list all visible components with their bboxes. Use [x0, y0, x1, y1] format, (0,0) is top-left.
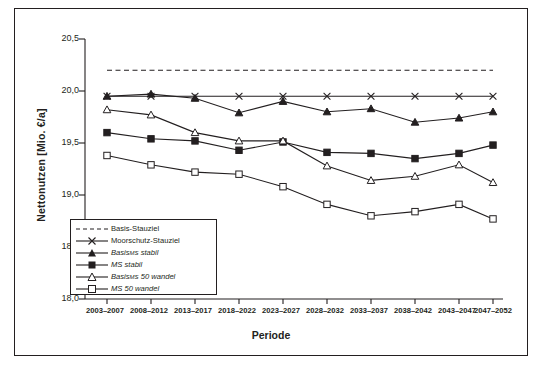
legend-item-basis-ms-stabil: BasisMS stabil [71, 247, 216, 259]
legend-label-sub: MS [130, 250, 139, 256]
x-tick-8: 2043–2047 [438, 306, 476, 315]
x-tick-1: 2008–2012 [130, 306, 168, 315]
data-point [236, 147, 242, 153]
legend-item-moorschutz-stauziel: Moorschutz-Stauziel [71, 235, 216, 247]
x-tick-7: 2038–2042 [394, 306, 432, 315]
data-point [192, 138, 198, 144]
series-layer [103, 70, 497, 222]
legend-label-tail: 50 wandel [122, 284, 159, 293]
x-tick-9: 2047–2052 [474, 306, 512, 315]
legend-label-basis-stauziel: Basis-Stauziel [111, 223, 159, 235]
data-point [192, 169, 198, 175]
legend-label-moorschutz-stauziel: Moorschutz-Stauziel [111, 235, 180, 247]
series-1 [104, 93, 497, 100]
x-tick-0: 2003–2007 [86, 306, 124, 315]
legend-item-ms-stabil: MS stabil [71, 259, 216, 271]
data-point [456, 150, 462, 156]
legend-label-tail: stabil [122, 260, 142, 269]
legend-label-ms-50-wandel: MS 50 wandel [111, 283, 159, 295]
legend-symbol-x-marker [75, 235, 109, 247]
data-point [456, 201, 462, 207]
data-point [489, 108, 497, 115]
data-point [455, 161, 463, 168]
data-point [490, 142, 496, 148]
data-point [236, 171, 242, 177]
data-point [104, 152, 110, 158]
legend: Basis-Stauziel Moorschutz-Stauziel Basis… [70, 219, 217, 295]
legend-item-basis-ms-50-wandel: BasisMS 50 wandel [71, 271, 216, 283]
legend-label-ms-stabil: MS stabil [111, 259, 142, 271]
legend-label-main: MS [111, 284, 122, 293]
data-point [368, 150, 374, 156]
data-point [368, 213, 374, 219]
data-point [367, 105, 375, 112]
data-point [489, 179, 497, 186]
legend-label-sub: MS [130, 274, 139, 280]
data-point [412, 208, 418, 214]
x-tick-2: 2013–2017 [174, 306, 212, 315]
legend-label-basis-ms-50-wandel: BasisMS 50 wandel [111, 271, 175, 283]
legend-symbol-dashed-line [75, 223, 109, 235]
legend-label-main: Basis [111, 248, 130, 257]
x-tick-4: 2023–2027 [262, 306, 300, 315]
data-point [103, 106, 111, 113]
data-point [191, 129, 199, 136]
legend-symbol-square-open [75, 283, 109, 295]
data-point [324, 149, 330, 155]
series-3 [104, 129, 496, 161]
legend-label-main: Basis [111, 272, 130, 281]
data-point [323, 162, 331, 169]
x-tick-3: 2018–2022 [218, 306, 256, 315]
data-point [104, 129, 110, 135]
data-point [490, 216, 496, 222]
legend-label-basis-ms-stabil: BasisMS stabil [111, 247, 158, 259]
legend-symbol-square-filled [75, 259, 109, 271]
series-5 [104, 152, 496, 222]
data-point [280, 183, 286, 189]
legend-label-tail: 50 wandel [139, 272, 176, 281]
x-tick-5: 2028–2032 [306, 306, 344, 315]
legend-symbol-triangle-filled [75, 247, 109, 259]
data-point [412, 155, 418, 161]
data-point [324, 201, 330, 207]
legend-label-tail: stabil [139, 248, 159, 257]
plot-area [15, 9, 527, 355]
legend-symbol-triangle-open [75, 271, 109, 283]
legend-item-ms-50-wandel: MS 50 wandel [71, 283, 216, 295]
data-point [148, 162, 154, 168]
chart-frame: Nettonutzen [Mio. €/a] Periode 20,5 20,0… [14, 8, 528, 356]
x-tick-6: 2033–2037 [350, 306, 388, 315]
legend-item-basis-stauziel: Basis-Stauziel [71, 223, 216, 235]
data-point [148, 136, 154, 142]
legend-label-main: MS [111, 260, 122, 269]
chart-screenshot: Nettonutzen [Mio. €/a] Periode 20,5 20,0… [0, 0, 540, 386]
